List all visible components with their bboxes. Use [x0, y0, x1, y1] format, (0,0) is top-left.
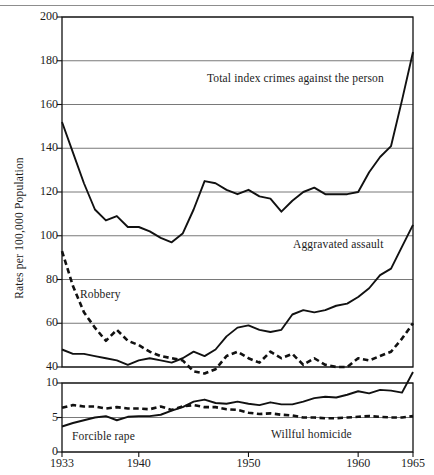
series-path-forcible-rape [62, 372, 413, 427]
series-label-forcible-rape: Forcible rape [72, 430, 135, 442]
series-path-robbery [62, 251, 413, 374]
series-label-robbery: Robbery [80, 288, 121, 300]
series-path-willful-homicide [62, 405, 413, 418]
series-label-willful-homicide: Willful homicide [271, 428, 352, 440]
series-label-aggravated-assault: Aggravated assault [293, 238, 384, 250]
series-label-total-index: Total index crimes against the person [207, 72, 384, 84]
crime-rates-figure: Rates per 100,000 Population 20018016014… [0, 0, 434, 475]
